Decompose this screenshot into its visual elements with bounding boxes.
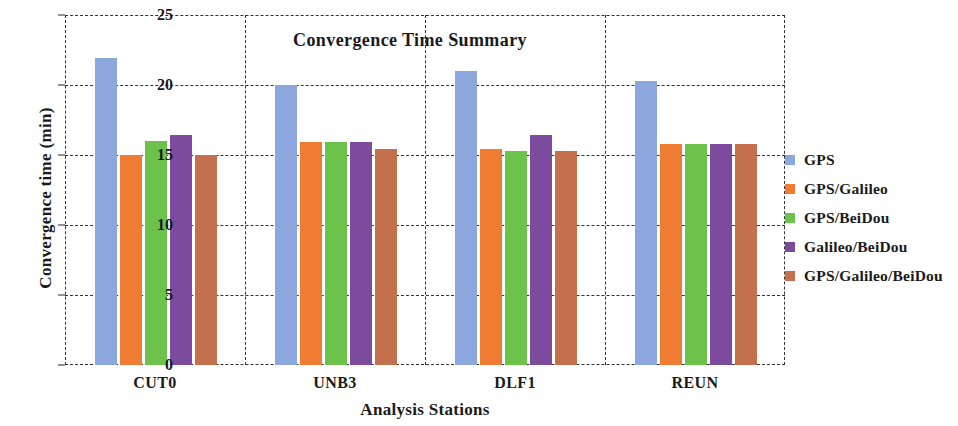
legend-item-gps: GPS: [785, 145, 943, 174]
y-tick-mark-20: [58, 85, 65, 86]
x-tick-label-CUT0: CUT0: [85, 374, 225, 392]
bar-group-CUT0: [65, 15, 245, 365]
bar-group-REUN: [605, 15, 785, 365]
y-tick-label-15: 15: [125, 146, 173, 164]
y-tick-label-25: 25: [125, 6, 173, 24]
legend-swatch-icon: [785, 242, 795, 252]
bar-group-UNB3: [245, 15, 425, 365]
legend-swatch-icon: [785, 213, 795, 223]
legend-item-gps-beidou: GPS/BeiDou: [785, 203, 943, 232]
y-tick-label-10: 10: [125, 216, 173, 234]
bar: [480, 149, 502, 365]
x-tick-label-DLF1: DLF1: [445, 374, 585, 392]
bar: [275, 85, 297, 365]
y-tick-mark-0: [58, 365, 65, 366]
legend-item-gps-galileo: GPS/Galileo: [785, 174, 943, 203]
bar: [375, 149, 397, 365]
bar: [530, 135, 552, 365]
y-tick-mark-15: [58, 155, 65, 156]
convergence-time-bar-chart: Convergence time (min) Convergence Time …: [0, 0, 958, 426]
legend-swatch-icon: [785, 155, 795, 165]
bar: [300, 142, 322, 365]
bar: [170, 135, 192, 365]
bar: [555, 151, 577, 365]
bar-groups: [65, 15, 785, 365]
bar: [735, 144, 757, 365]
x-tick-label-UNB3: UNB3: [265, 374, 405, 392]
y-tick-mark-5: [58, 295, 65, 296]
legend-item-galileo-beidou: Galileo/BeiDou: [785, 232, 943, 261]
y-tick-label-20: 20: [125, 76, 173, 94]
bar: [120, 155, 142, 365]
bar: [685, 144, 707, 365]
y-axis-title: Convergence time (min): [36, 48, 56, 348]
bar: [350, 142, 372, 365]
bar: [95, 58, 117, 365]
legend-swatch-icon: [785, 184, 795, 194]
plot-area: [65, 15, 785, 365]
bar: [325, 142, 347, 365]
y-tick-mark-10: [58, 225, 65, 226]
y-tick-label-0: 0: [125, 356, 173, 374]
bar: [710, 144, 732, 365]
bar: [660, 144, 682, 365]
y-tick-mark-25: [58, 15, 65, 16]
legend: GPSGPS/GalileoGPS/BeiDouGalileo/BeiDouGP…: [785, 145, 943, 290]
x-axis-title: Analysis Stations: [65, 400, 785, 420]
legend-label: GPS/BeiDou: [804, 209, 890, 227]
bar: [635, 81, 657, 365]
bar: [455, 71, 477, 365]
legend-label: Galileo/BeiDou: [804, 238, 908, 256]
legend-swatch-icon: [785, 271, 795, 281]
bar-group-DLF1: [425, 15, 605, 365]
y-tick-label-5: 5: [125, 286, 173, 304]
legend-label: GPS/Galileo/BeiDou: [804, 267, 943, 285]
bar: [145, 141, 167, 365]
legend-item-gps-galileo-beidou: GPS/Galileo/BeiDou: [785, 261, 943, 290]
x-tick-label-REUN: REUN: [625, 374, 765, 392]
bar: [505, 151, 527, 365]
legend-label: GPS/Galileo: [804, 180, 888, 198]
bar: [195, 155, 217, 365]
legend-label: GPS: [804, 151, 835, 169]
